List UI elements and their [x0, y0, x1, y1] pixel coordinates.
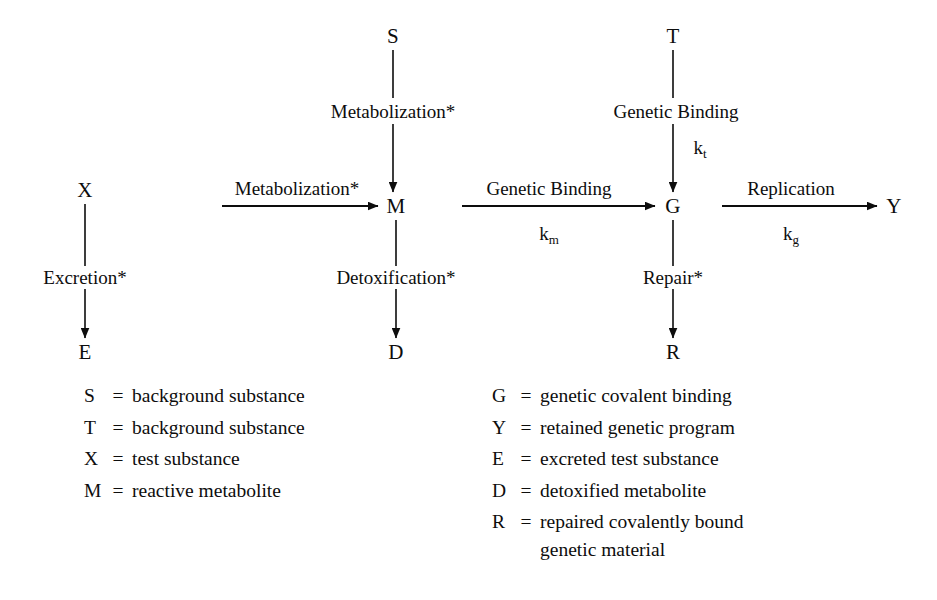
- rate-kt-symbol: k: [693, 137, 703, 158]
- rate-km-subscript: m: [549, 232, 559, 247]
- legend-item: T = background substance: [84, 418, 414, 438]
- legend-item: S = background substance: [84, 386, 414, 406]
- diagram-canvas: S T X M G Y E D R Metabolization* Geneti…: [0, 0, 937, 600]
- legend-left-column: S = background substance T = background …: [84, 386, 414, 512]
- legend-equals: =: [512, 481, 540, 501]
- edge-label-g-to-r: Repair*: [640, 268, 706, 287]
- legend-item: D = detoxified metabolite: [492, 481, 872, 501]
- node-x: X: [77, 180, 92, 201]
- legend-description: detoxified metabolite: [540, 481, 872, 501]
- legend-symbol: M: [84, 481, 104, 501]
- node-t: T: [666, 26, 679, 47]
- node-m: M: [387, 196, 406, 217]
- legend-description: retained genetic program: [540, 418, 872, 438]
- legend-symbol: D: [492, 481, 512, 501]
- legend-item: G = genetic covalent binding: [492, 386, 872, 406]
- legend-symbol: G: [492, 386, 512, 406]
- legend-symbol: T: [84, 418, 104, 438]
- legend-description: reactive metabolite: [132, 481, 414, 501]
- legend-equals: =: [512, 386, 540, 406]
- node-g: G: [665, 196, 680, 217]
- legend-symbol: R: [492, 512, 512, 532]
- legend-symbol: Y: [492, 418, 512, 438]
- legend-right-column: G = genetic covalent binding Y = retaine…: [492, 386, 872, 571]
- node-y: Y: [886, 196, 901, 217]
- legend-description: test substance: [132, 449, 414, 469]
- legend-item: Y = retained genetic program: [492, 418, 872, 438]
- node-e: E: [78, 342, 91, 363]
- legend-description-line2: genetic material: [540, 540, 872, 560]
- legend-description: excreted test substance: [540, 449, 872, 469]
- edge-label-s-to-m: Metabolization*: [328, 102, 459, 121]
- edge-label-x-to-m: Metabolization*: [232, 179, 363, 198]
- node-s: S: [387, 26, 399, 47]
- edge-label-m-to-d: Detoxification*: [333, 268, 458, 287]
- legend-equals: =: [104, 386, 132, 406]
- legend-item: R = repaired covalently bound genetic ma…: [492, 512, 872, 559]
- legend-equals: =: [104, 481, 132, 501]
- rate-kg-subscript: g: [793, 232, 800, 247]
- legend-description: genetic covalent binding: [540, 386, 872, 406]
- rate-kg-symbol: k: [783, 223, 793, 244]
- rate-kt-subscript: t: [703, 146, 707, 161]
- rate-constant-kt: kt: [693, 138, 706, 157]
- edge-label-m-to-g: Genetic Binding: [483, 179, 614, 198]
- legend-equals: =: [104, 418, 132, 438]
- legend-item: X = test substance: [84, 449, 414, 469]
- legend-description: background substance: [132, 386, 414, 406]
- node-d: D: [388, 342, 403, 363]
- legend-equals: =: [512, 512, 540, 532]
- legend-symbol: X: [84, 449, 104, 469]
- legend-description: background substance: [132, 418, 414, 438]
- legend-equals: =: [512, 418, 540, 438]
- rate-constant-km: km: [539, 224, 559, 243]
- edge-label-x-to-e: Excretion*: [40, 268, 129, 287]
- legend-item: M = reactive metabolite: [84, 481, 414, 501]
- legend-symbol: E: [492, 449, 512, 469]
- legend-equals: =: [512, 449, 540, 469]
- legend-item: E = excreted test substance: [492, 449, 872, 469]
- legend-description: repaired covalently bound genetic materi…: [540, 512, 872, 559]
- legend-equals: =: [104, 449, 132, 469]
- legend-symbol: S: [84, 386, 104, 406]
- edge-label-g-to-y: Replication: [744, 179, 838, 198]
- rate-km-symbol: k: [539, 223, 549, 244]
- legend-description-line1: repaired covalently bound: [540, 511, 744, 532]
- rate-constant-kg: kg: [783, 224, 799, 243]
- node-r: R: [666, 342, 680, 363]
- edge-label-t-to-g: Genetic Binding: [610, 102, 741, 121]
